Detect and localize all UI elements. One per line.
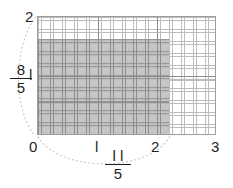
shaded-product-rectangle	[38, 39, 169, 134]
x-tick-label-0: 0	[29, 139, 37, 154]
shaded-region-gridlines	[38, 39, 169, 134]
width-fraction-label: l l 5	[105, 148, 131, 181]
height-fraction-numerator: 8	[10, 62, 32, 77]
width-fraction-numerator: l l	[105, 148, 131, 163]
major-gridline-y-1	[38, 76, 215, 77]
x-tick-label-3: 3	[211, 139, 219, 154]
x-tick-label-1: l	[95, 139, 98, 154]
x-tick-label-2: 2	[151, 139, 159, 154]
y-tick-label-2: 2	[25, 9, 33, 24]
width-fraction-denominator: 5	[105, 166, 131, 181]
grid-plot-area	[37, 16, 216, 135]
height-fraction-label: 8 5	[10, 62, 32, 95]
height-fraction-denominator: 5	[10, 80, 32, 95]
area-model-figure: 2 l 0 l 2 3 8 5 l l 5	[0, 0, 233, 188]
